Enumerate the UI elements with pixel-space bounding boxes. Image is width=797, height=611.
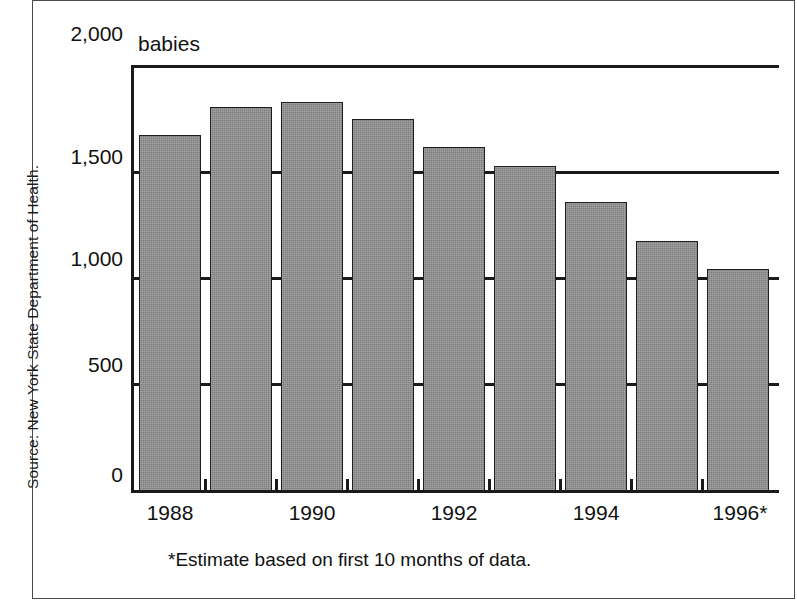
x-tick-label-1990: 1990	[289, 501, 336, 525]
y-tick-label-1500: 1,500	[37, 146, 123, 167]
x-tick-label-1988: 1988	[147, 501, 194, 525]
y-tick-label-0: 0	[37, 464, 123, 485]
x-tick-mark-4	[417, 479, 420, 492]
x-tick-mark-2	[275, 479, 278, 492]
bar-1989	[210, 107, 272, 491]
x-tick-label-1992: 1992	[431, 501, 478, 525]
x-tick-mark-3	[346, 479, 349, 492]
bar-1995	[636, 241, 698, 491]
chart-page: 2,000 1,500 1,000 500 0 babies	[0, 0, 797, 611]
chart-footnote: *Estimate based on first 10 months of da…	[168, 549, 531, 571]
y-axis-spine	[131, 65, 134, 493]
bar-1993	[494, 166, 556, 491]
bar-1990	[281, 102, 343, 491]
x-tick-mark-6	[559, 479, 562, 492]
chart-plot-area: 2,000 1,500 1,000 500 0 babies	[33, 1, 796, 600]
y-tick-label-500: 500	[37, 354, 123, 375]
x-tick-mark-8	[701, 479, 704, 492]
source-note: Source: New York State Department of Hea…	[24, 69, 42, 489]
bar-1991	[352, 119, 414, 491]
x-tick-mark-7	[630, 479, 633, 492]
x-tick-mark-1	[204, 479, 207, 492]
x-axis-spine	[131, 490, 779, 493]
bar-1988	[139, 135, 201, 491]
bar-1996	[707, 269, 769, 491]
x-tick-label-1994: 1994	[573, 501, 620, 525]
bar-1992	[423, 147, 485, 491]
figure-frame: 2,000 1,500 1,000 500 0 babies	[32, 0, 795, 599]
x-tick-mark-5	[488, 479, 491, 492]
y-tick-label-1000: 1,000	[37, 248, 123, 269]
y-axis-labels: 2,000 1,500 1,000 500 0	[33, 1, 123, 600]
y-tick-label-2000: 2,000	[37, 23, 123, 44]
bar-1994	[565, 202, 627, 491]
x-tick-label-1996: 1996*	[713, 501, 768, 525]
